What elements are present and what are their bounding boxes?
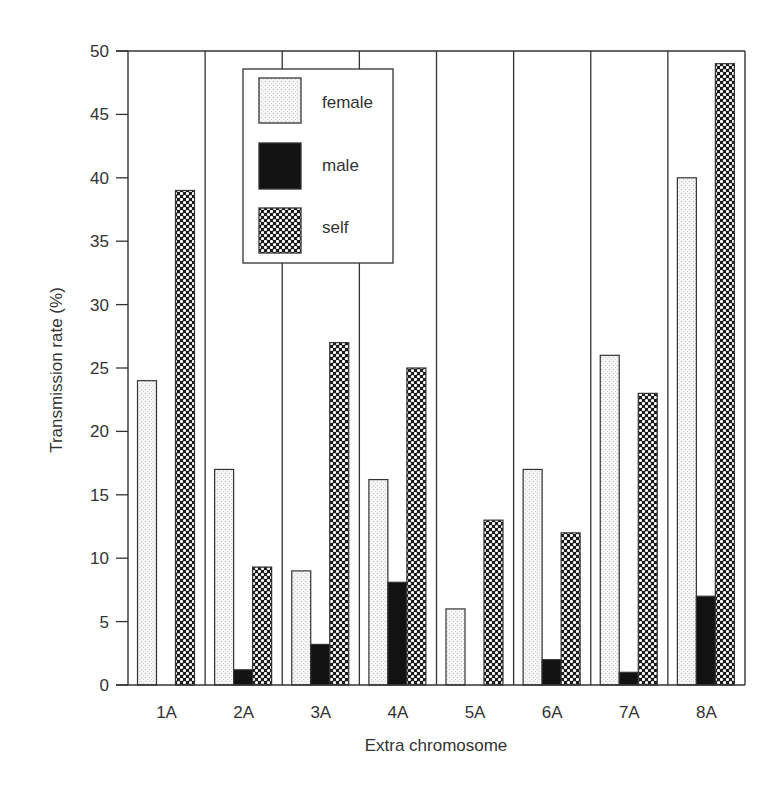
bar-female-7A — [600, 355, 619, 685]
bar-self-6A — [561, 533, 580, 685]
y-tick-label: 45 — [90, 105, 109, 124]
x-tick-label: 4A — [388, 703, 409, 722]
x-tick-label: 1A — [156, 703, 177, 722]
bar-female-6A — [523, 469, 542, 685]
bar-female-5A — [446, 609, 465, 685]
y-tick-label: 0 — [100, 676, 109, 695]
bar-self-2A — [253, 567, 272, 685]
y-tick-label: 50 — [90, 42, 109, 61]
y-tick-label: 5 — [100, 613, 109, 632]
bar-group-6A — [523, 469, 580, 685]
y-tick-label: 20 — [90, 422, 109, 441]
bar-male-4A — [388, 582, 407, 685]
x-tick-label: 5A — [465, 703, 486, 722]
y-axis-title: Transmission rate (%) — [47, 287, 66, 453]
legend-label-self: self — [322, 218, 349, 237]
legend: female male self — [243, 69, 393, 263]
legend-swatch-self — [259, 208, 301, 253]
y-tick-label: 15 — [90, 486, 109, 505]
bar-group-2A — [215, 469, 272, 685]
legend-label-male: male — [322, 156, 359, 175]
plot-area: 1A2A3A4A5A6A7A8A05101520253035404550 — [90, 42, 745, 722]
bar-female-2A — [215, 469, 234, 685]
bar-group-1A — [138, 190, 195, 685]
bar-self-4A — [407, 368, 426, 685]
bar-male-8A — [696, 596, 715, 685]
bar-female-4A — [369, 480, 388, 685]
bar-group-8A — [677, 64, 734, 685]
bar-female-8A — [677, 178, 696, 685]
bar-chart: 1A2A3A4A5A6A7A8A05101520253035404550 Tra… — [0, 0, 778, 785]
x-tick-label: 7A — [619, 703, 640, 722]
bar-self-7A — [638, 393, 657, 685]
x-tick-label: 3A — [310, 703, 331, 722]
x-axis-title: Extra chromosome — [365, 736, 508, 755]
legend-label-female: female — [322, 93, 373, 112]
bar-female-1A — [138, 381, 157, 685]
y-tick-label: 35 — [90, 232, 109, 251]
legend-swatch-male — [259, 143, 301, 189]
y-tick-label: 40 — [90, 169, 109, 188]
bar-male-6A — [542, 660, 561, 685]
x-tick-label: 2A — [233, 703, 254, 722]
bar-self-3A — [330, 343, 349, 685]
y-tick-label: 30 — [90, 296, 109, 315]
bar-female-3A — [292, 571, 311, 685]
bar-group-4A — [369, 368, 426, 685]
bar-male-3A — [311, 644, 330, 685]
bar-male-7A — [619, 672, 638, 685]
bar-group-7A — [600, 355, 657, 685]
y-tick-label: 10 — [90, 549, 109, 568]
x-tick-label: 6A — [542, 703, 563, 722]
bar-group-3A — [292, 343, 349, 685]
bar-group-5A — [446, 520, 503, 685]
legend-swatch-female — [259, 78, 301, 123]
bar-male-2A — [234, 670, 253, 685]
bar-self-5A — [484, 520, 503, 685]
bar-self-8A — [715, 64, 734, 685]
x-tick-label: 8A — [696, 703, 717, 722]
y-tick-label: 25 — [90, 359, 109, 378]
bar-self-1A — [176, 190, 195, 685]
